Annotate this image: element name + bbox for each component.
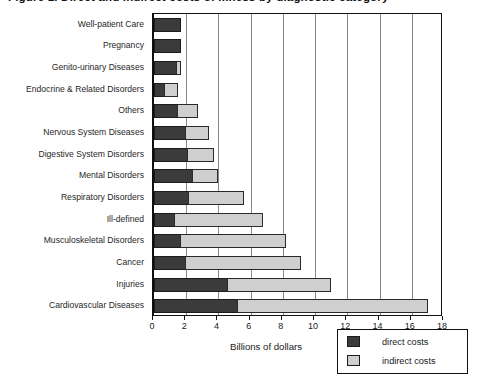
bar-segment-indirect: [185, 126, 209, 140]
chart-legend: direct costs indirect costs: [337, 329, 468, 374]
y-axis-tick-label: Nervous System Diseases: [43, 127, 144, 137]
bar-segment-direct: [154, 39, 181, 53]
chart-figure: Figure 1. Direct and indirect costs of i…: [0, 0, 490, 381]
x-axis-tick: [249, 316, 250, 320]
legend-label-indirect: indirect costs: [382, 356, 436, 366]
x-axis-tick-label: 0: [149, 321, 154, 331]
y-axis-tick-label: Others: [118, 105, 144, 115]
bar-segment-direct: [154, 18, 181, 32]
bar-segment-indirect: [180, 234, 286, 248]
x-axis-tick-label: 2: [182, 321, 187, 331]
legend-item-indirect-costs: indirect costs: [347, 355, 436, 366]
bar-segment-direct: [154, 234, 181, 248]
bar-segment-direct: [154, 256, 186, 270]
x-axis-tick-label: 4: [214, 321, 219, 331]
x-axis-tick: [345, 316, 346, 320]
plot-area: [152, 13, 442, 316]
y-axis-tick-label: Ill-defined: [107, 214, 144, 224]
bar-row: [154, 256, 301, 270]
bar-segment-indirect: [188, 191, 244, 205]
bar-segment-direct: [154, 299, 238, 313]
bar-segment-indirect: [177, 104, 198, 118]
x-axis-tick-label: 10: [308, 321, 318, 331]
x-axis-tick: [281, 316, 282, 320]
gridline: [412, 14, 413, 315]
bar-segment-direct: [154, 169, 193, 183]
legend-swatch-icon-indirect: [347, 355, 360, 366]
bar-segment-indirect: [185, 256, 300, 270]
bar-row: [154, 299, 428, 313]
bar-row: [154, 191, 244, 205]
bar-segment-indirect: [176, 61, 180, 75]
y-axis-tick-label: Cardiovascular Diseases: [49, 300, 144, 310]
bar-segment-indirect: [164, 83, 178, 97]
bar-segment-indirect: [174, 213, 263, 227]
bar-segment-direct: [154, 278, 228, 292]
bar-segment-indirect: [237, 299, 428, 313]
x-axis-tick: [378, 316, 379, 320]
y-axis-tick-label: Cancer: [116, 257, 144, 267]
bar-row: [154, 83, 178, 97]
bar-row: [154, 234, 286, 248]
y-axis-tick-label: Well-patient Care: [78, 19, 144, 29]
bar-segment-direct: [154, 148, 188, 162]
bar-segment-indirect: [227, 278, 331, 292]
x-axis-tick: [442, 316, 443, 320]
bar-row: [154, 61, 181, 75]
bar-segment-direct: [154, 191, 189, 205]
figure-title-clipped: Figure 1. Direct and indirect costs of i…: [0, 0, 490, 7]
x-axis-tick: [184, 316, 185, 320]
bar-segment-indirect: [187, 148, 215, 162]
y-axis-tick-label: Digestive System Disorders: [38, 149, 144, 159]
x-axis-tick: [216, 316, 217, 320]
gridline: [380, 14, 381, 315]
y-axis-tick-label: Pregnancy: [103, 40, 144, 50]
x-axis-tick-label: 8: [278, 321, 283, 331]
bar-row: [154, 126, 209, 140]
bar-segment-direct: [154, 126, 186, 140]
x-axis-tick: [152, 316, 153, 320]
bar-row: [154, 39, 181, 53]
legend-label-direct: direct costs: [382, 337, 428, 347]
x-axis-tick: [313, 316, 314, 320]
bar-segment-direct: [154, 61, 177, 75]
y-axis-tick-label: Genito-urinary Diseases: [52, 62, 144, 72]
x-axis-tick: [410, 316, 411, 320]
bar-segment-direct: [154, 104, 178, 118]
bar-row: [154, 148, 214, 162]
y-axis-category-labels: Well-patient CarePregnancyGenito-urinary…: [0, 13, 148, 316]
bar-segment-direct: [154, 213, 175, 227]
bar-row: [154, 213, 263, 227]
gridline: [347, 14, 348, 315]
figure-title-text: Figure 1. Direct and indirect costs of i…: [8, 0, 389, 3]
bar-row: [154, 169, 218, 183]
legend-swatch-icon-direct: [347, 336, 360, 347]
bar-row: [154, 104, 198, 118]
y-axis-tick-label: Injuries: [116, 279, 144, 289]
y-axis-tick-label: Musculoskeletal Disorders: [44, 235, 144, 245]
bar-row: [154, 278, 331, 292]
x-axis-title: Billions of dollars: [196, 341, 336, 352]
x-axis-tick-label: 6: [246, 321, 251, 331]
bar-row: [154, 18, 181, 32]
legend-item-direct-costs: direct costs: [347, 336, 428, 347]
y-axis-tick-label: Mental Disorders: [79, 170, 144, 180]
y-axis-tick-label: Endocrine & Related Disorders: [26, 84, 144, 94]
bar-segment-indirect: [192, 169, 219, 183]
y-axis-tick-label: Respiratory Disorders: [61, 192, 144, 202]
gridline: [315, 14, 316, 315]
